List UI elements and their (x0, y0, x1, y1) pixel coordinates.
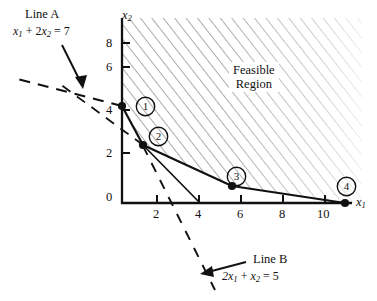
x-tick-label-4: 4 (195, 207, 201, 221)
line-b-equation: 2x1 + x2 = 5 (222, 270, 279, 285)
line-a-dashed-extension (14, 78, 122, 106)
y-tick-label-0: 0 (106, 190, 112, 204)
vertex-label-3: 3 (228, 168, 245, 185)
vertex-badges (136, 97, 355, 195)
y-axis-label: x2 (122, 8, 132, 24)
line-b-dashed-upper (60, 84, 143, 145)
vertex-dot-1 (118, 102, 126, 110)
vertex-label-4: 4 (338, 178, 355, 195)
x-tick-label-8: 8 (279, 207, 285, 221)
vertex-dot-4 (341, 199, 349, 207)
boundary-segment-3-4 (232, 186, 345, 203)
line-b-solid-segment (143, 145, 232, 186)
y-tick-label-4: 4 (106, 103, 112, 117)
x-tick-label-10: 10 (317, 207, 330, 221)
x-tick-label-2: 2 (153, 207, 159, 221)
vertex-label-2: 2 (150, 128, 167, 145)
vertex-label-1: 1 (137, 98, 154, 115)
vertex-dot-2 (139, 141, 147, 149)
y-tick-label-2: 2 (106, 146, 112, 160)
figure-canvas: x2 x1 8 6 4 2 0 2 4 6 8 10 1 2 3 4 Line … (0, 0, 377, 301)
y-tick-label-8: 8 (106, 36, 112, 50)
line-b-title: Line B (253, 252, 287, 266)
x-axis-label: x1 (356, 195, 366, 211)
feasible-region-line-1: Feasible (233, 63, 275, 77)
x-tick-label-6: 6 (237, 207, 243, 221)
feasible-region-label: Feasible Region (229, 62, 279, 92)
feasible-region-line-2: Region (233, 77, 275, 91)
geometry-layer (0, 0, 377, 301)
y-tick-label-6: 6 (106, 60, 112, 74)
y-axis (122, 18, 130, 204)
line-a-callout-arrow (62, 45, 87, 89)
line-a-lower-extension (143, 145, 200, 203)
line-a-title: Line A (25, 7, 59, 21)
line-a-equation: x1 + 2x2 = 7 (13, 25, 70, 40)
